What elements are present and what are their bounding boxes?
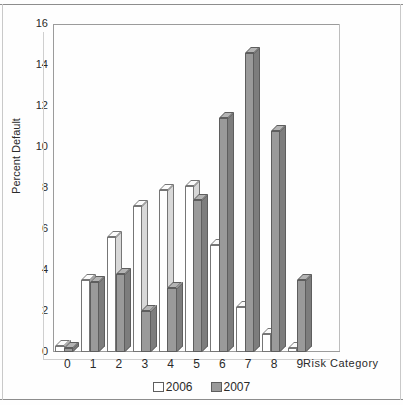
- bar-face: [167, 288, 176, 352]
- x-tick-label: 0: [55, 357, 79, 371]
- bar-side: [280, 125, 286, 352]
- bar-2007-cat-9: [297, 274, 306, 352]
- bar-side: [125, 268, 131, 352]
- legend-label-2006: 2006: [166, 380, 193, 394]
- bar-face: [271, 131, 280, 352]
- legend-swatch-2007: [211, 382, 222, 392]
- bar-side: [99, 276, 105, 352]
- legend-label-2007: 2007: [224, 380, 251, 394]
- bar-side: [306, 274, 312, 352]
- bar-face: [297, 280, 306, 352]
- chart-figure: Percent Default 0246810121416 0123456789…: [0, 0, 403, 405]
- legend-swatch-2006: [153, 382, 164, 392]
- bar-face: [219, 118, 228, 352]
- x-tick-label: 8: [262, 357, 286, 371]
- bar-2007-cat-6: [219, 112, 228, 352]
- bar-2007-cat-3: [141, 305, 150, 352]
- bar-group-container: [0, 0, 403, 405]
- bar-2007-cat-7: [245, 47, 254, 352]
- x-tick-label: 4: [159, 357, 183, 371]
- bar-face: [245, 53, 254, 352]
- bar-face: [64, 348, 73, 352]
- legend-item-2007: 2007: [211, 380, 251, 394]
- bar-side: [254, 47, 260, 352]
- bar-side: [202, 194, 208, 352]
- x-tick-label: 7: [236, 357, 260, 371]
- x-tick-label: 5: [185, 357, 209, 371]
- x-tick-label: 1: [81, 357, 105, 371]
- x-tick-label: 2: [107, 357, 131, 371]
- bar-2007-cat-5: [193, 194, 202, 352]
- bar-2007-cat-0: [64, 342, 73, 352]
- bar-side: [177, 282, 183, 352]
- bar-face: [141, 311, 150, 352]
- bar-2007-cat-8: [271, 125, 280, 352]
- x-axis-label: Risk Category: [303, 357, 379, 369]
- bar-face: [193, 200, 202, 352]
- bar-side: [151, 305, 157, 352]
- legend-item-2006: 2006: [153, 380, 193, 394]
- bar-2007-cat-1: [90, 276, 99, 352]
- bar-face: [116, 274, 125, 352]
- x-tick-label: 6: [210, 357, 234, 371]
- bar-2007-cat-2: [116, 268, 125, 352]
- x-tick-label: 3: [133, 357, 157, 371]
- bar-face: [90, 282, 99, 352]
- bar-2007-cat-4: [167, 282, 176, 352]
- chart-legend: 2006 2007: [0, 378, 403, 396]
- bar-side: [228, 112, 234, 352]
